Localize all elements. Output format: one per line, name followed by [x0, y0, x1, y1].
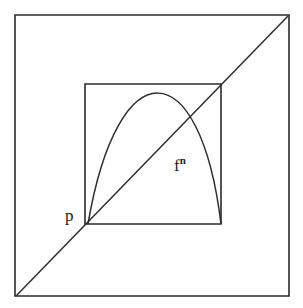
figure-canvas: p fn	[0, 0, 303, 308]
fixed-point-label-p: p	[65, 207, 74, 224]
identity-diagonal-line	[16, 16, 288, 296]
parabola-curve	[88, 93, 221, 224]
map-label-exponent: n	[180, 154, 186, 166]
map-label-f-n: fn	[174, 155, 186, 174]
geometry-diagram	[0, 0, 303, 308]
